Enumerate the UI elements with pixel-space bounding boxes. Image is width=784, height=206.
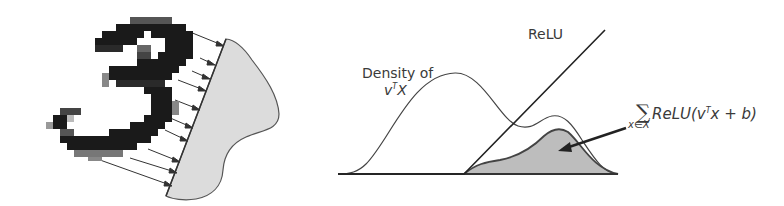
- density-label: Density of: [362, 66, 433, 80]
- sum-subscript: x∈X: [628, 120, 649, 130]
- digit-projection-panel: [0, 0, 300, 206]
- relu-label: ReLU: [528, 27, 563, 41]
- sum-expression: ReLU(vTx + b): [652, 107, 757, 122]
- relu-density-panel: Density of vTX ReLU ∑ x∈X ReLU(vTx + b): [320, 0, 784, 206]
- digit-3-icon: [46, 17, 193, 161]
- digit-projection-graphic: [0, 0, 300, 206]
- density-variable-label: vTX: [384, 83, 407, 97]
- relu-weighted-area: [464, 129, 618, 174]
